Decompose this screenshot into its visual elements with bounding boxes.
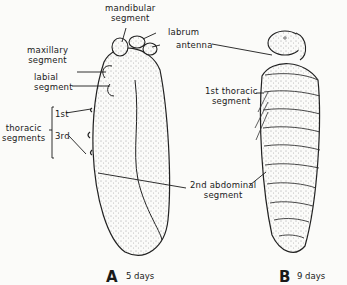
label-line: mandibular <box>105 3 155 13</box>
panel-b-letter: B <box>279 268 290 285</box>
label-line: 2nd abdominal <box>190 180 256 190</box>
label-line: maxillary <box>27 45 68 55</box>
panel-b-age: 9 days <box>297 271 325 281</box>
label-line: segments <box>2 133 45 143</box>
label-line: segment <box>105 13 155 23</box>
panel-a-letter: A <box>106 268 118 285</box>
panel-a-age: 5 days <box>126 271 154 281</box>
label-line: thoracic <box>2 123 45 133</box>
label-line: segment <box>190 190 256 200</box>
label-line: 1st thoracic <box>205 86 258 96</box>
embryo-diagram: mandibular segment labrum antenna maxill… <box>0 0 347 285</box>
diagram-drawing <box>0 0 347 285</box>
label-maxillary-segment: maxillary segment <box>27 45 68 65</box>
embryo-b <box>255 31 320 252</box>
label-1st-thoracic-segment: 1st thoracic segment <box>205 86 258 106</box>
label-line: segment <box>34 82 73 92</box>
label-mandibular-segment: mandibular segment <box>105 3 155 23</box>
label-3rd: 3rd <box>55 131 70 141</box>
label-1st: 1st <box>55 109 69 119</box>
label-thoracic-segments: thoracic segments <box>2 123 45 143</box>
label-line: labial <box>34 72 73 82</box>
label-line: segment <box>205 96 258 106</box>
embryo-a <box>88 36 170 255</box>
label-antenna: antenna <box>176 40 213 50</box>
label-line: segment <box>27 55 68 65</box>
label-labrum: labrum <box>168 27 199 37</box>
label-2nd-abdominal-segment: 2nd abdominal segment <box>190 180 256 200</box>
label-labial-segment: labial segment <box>34 72 73 92</box>
